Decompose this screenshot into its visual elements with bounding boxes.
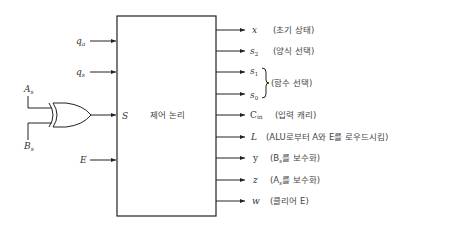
svg-text:(As를 보수화): (As를 보수화) bbox=[270, 175, 320, 186]
output-cin: Cin (입력 캐리) bbox=[216, 110, 316, 120]
output-x: x (초기 상태) bbox=[216, 25, 314, 35]
svg-text:s1: s1 bbox=[250, 66, 258, 77]
output-w: w (클리어 E) bbox=[216, 196, 309, 206]
output-s1: s1 bbox=[216, 66, 258, 77]
svg-text:qs: qs bbox=[76, 67, 85, 78]
svg-text:(클리어 E): (클리어 E) bbox=[270, 196, 309, 206]
block-title: 제어 논리 bbox=[150, 110, 185, 120]
input-q-a: qa bbox=[76, 36, 116, 47]
output-s2: s2 (양식 선택) bbox=[216, 46, 314, 57]
svg-text:s2: s2 bbox=[250, 46, 258, 57]
output-y: y (Bs를 보수화) bbox=[216, 153, 320, 164]
input-e: E bbox=[79, 155, 116, 165]
output-z: z (As를 보수화) bbox=[216, 175, 320, 186]
svg-text:x: x bbox=[252, 25, 257, 35]
b-s-label: Bs bbox=[23, 141, 34, 152]
xor-gate: As Bs bbox=[23, 84, 116, 152]
svg-text:L: L bbox=[250, 132, 257, 142]
xor-body bbox=[53, 103, 91, 127]
svg-text:qa: qa bbox=[76, 36, 86, 47]
input-q-s: qs bbox=[76, 67, 116, 78]
svg-text:Cin: Cin bbox=[250, 110, 263, 120]
b-s-wire bbox=[28, 123, 52, 140]
a-s-label: As bbox=[23, 84, 34, 95]
output-l: L (ALU로부터 A와 E를 로우드시킴) bbox=[216, 132, 388, 142]
a-s-wire bbox=[28, 96, 52, 108]
svg-text:(Bs를 보수화): (Bs를 보수화) bbox=[270, 153, 320, 164]
svg-text:(입력 캐리): (입력 캐리) bbox=[275, 110, 316, 120]
svg-text:(양식 선택): (양식 선택) bbox=[273, 46, 314, 56]
svg-text:(함수 선택): (함수 선택) bbox=[271, 78, 312, 88]
svg-text:E: E bbox=[79, 155, 87, 165]
s-port-label: S bbox=[122, 111, 128, 121]
control-logic-diagram: 제어 논리 S qa qs E As Bs x (초기 상태) s2 (양식 선… bbox=[0, 0, 453, 229]
svg-text:z: z bbox=[252, 175, 258, 185]
svg-text:y: y bbox=[252, 153, 259, 163]
svg-text:(초기 상태): (초기 상태) bbox=[273, 25, 314, 35]
svg-text:s0: s0 bbox=[250, 90, 259, 101]
function-select-brace: (함수 선택) bbox=[262, 68, 312, 98]
output-s0: s0 bbox=[216, 90, 259, 101]
svg-text:(ALU로부터 A와 E를 로우드시킴): (ALU로부터 A와 E를 로우드시킴) bbox=[266, 132, 388, 142]
svg-text:w: w bbox=[252, 196, 260, 206]
